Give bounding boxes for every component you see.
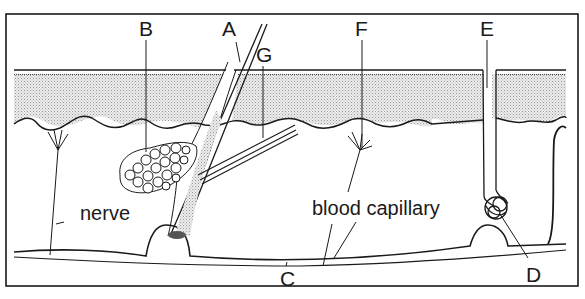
epidermis-layer bbox=[14, 74, 224, 128]
label-g: G bbox=[256, 43, 272, 66]
label-a: A bbox=[222, 17, 236, 40]
epidermis-layer bbox=[232, 74, 432, 126]
label-e: E bbox=[480, 17, 494, 40]
label-b: B bbox=[139, 17, 153, 40]
sebaceous-gland bbox=[120, 142, 197, 193]
label-c: C bbox=[280, 267, 295, 290]
diagram-frame bbox=[6, 14, 578, 286]
label-nerve: nerve bbox=[80, 202, 130, 224]
label-blood-capillary: blood capillary bbox=[312, 197, 440, 219]
label-f: F bbox=[355, 17, 368, 40]
hair-follicle bbox=[168, 24, 267, 239]
epidermis-layer bbox=[420, 74, 484, 124]
leader-lines bbox=[56, 40, 528, 266]
skin-section-diagram: A B G F E C D nerve blood capillary bbox=[0, 0, 585, 299]
fat-layer-boundary bbox=[14, 225, 566, 266]
epidermis-layer bbox=[492, 74, 566, 123]
label-d: D bbox=[526, 263, 541, 286]
blood-vessel bbox=[548, 127, 566, 245]
